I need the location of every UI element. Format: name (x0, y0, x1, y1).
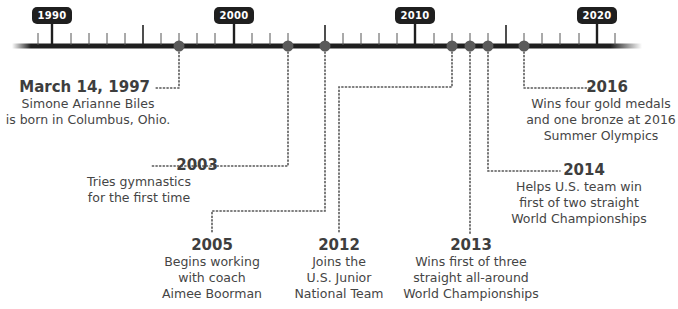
decade-badge-2000: 2000 (214, 7, 254, 24)
decade-badge-1990: 1990 (32, 7, 72, 24)
event-year: 2013 (400, 237, 542, 254)
marker-1997 (174, 41, 185, 52)
marker-2014 (483, 41, 494, 52)
decade-badge-2010: 2010 (395, 7, 435, 24)
connector-2012 (339, 52, 452, 234)
event-year: 2005 (150, 237, 274, 254)
event-description: Joins the U.S. Junior National Team (286, 254, 392, 302)
timeline-diagram: 1990 2000 2010 2020 March 14, 1997 Simon… (0, 0, 678, 309)
event-2003: 2003 Tries gymnastics for the first time (66, 157, 212, 206)
marker-2005 (320, 41, 331, 52)
event-description: Helps U.S. team win first of two straigh… (504, 179, 654, 227)
marker-2012 (447, 41, 458, 52)
event-year: 2014 (504, 162, 654, 179)
decade-badge-2020: 2020 (577, 7, 617, 24)
event-description: Begins working with coach Aimee Boorman (150, 254, 274, 302)
event-2005: 2005 Begins working with coach Aimee Boo… (150, 237, 274, 302)
event-2013: 2013 Wins first of three straight all-ar… (400, 237, 542, 302)
marker-2003 (283, 41, 294, 52)
event-description: Tries gymnastics for the first time (66, 174, 212, 206)
event-2016: 2016 Wins four gold medals and one bronz… (526, 79, 676, 144)
event-description: Wins four gold medals and one bronze at … (526, 96, 676, 144)
event-year: 2003 (66, 157, 218, 174)
event-2014: 2014 Helps U.S. team win first of two st… (504, 162, 654, 227)
marker-2013 (465, 41, 476, 52)
connector-2005 (212, 52, 325, 234)
event-description: Wins first of three straight all-around … (400, 254, 542, 302)
event-year: 2012 (286, 237, 392, 254)
event-1997: March 14, 1997 Simone Arianne Biles is b… (2, 79, 174, 128)
marker-2016 (519, 41, 530, 52)
event-description: Simone Arianne Biles is born in Columbus… (2, 96, 174, 128)
event-2012: 2012 Joins the U.S. Junior National Team (286, 237, 392, 302)
event-year: March 14, 1997 (2, 79, 174, 96)
event-year: 2016 (526, 79, 676, 96)
